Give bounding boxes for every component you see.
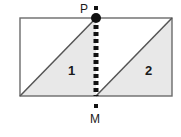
point-label-m: M (90, 113, 100, 125)
point-label-p: P (80, 3, 88, 15)
geometry-figure: P M 1 2 (0, 0, 181, 137)
region-label-2: 2 (145, 64, 152, 77)
region-label-1: 1 (68, 64, 75, 77)
m-tick-square-icon (94, 104, 98, 108)
point-p-marker (91, 13, 101, 23)
p-tick-square-icon (94, 6, 98, 10)
